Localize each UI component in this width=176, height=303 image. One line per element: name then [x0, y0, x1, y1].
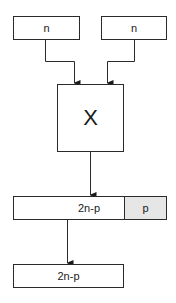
output-label: 2n-p [57, 270, 79, 282]
multiplier-label: X [83, 105, 98, 131]
arrow-input-left-to-multiplier [46, 39, 75, 83]
input-right-label: n [131, 22, 137, 34]
input-box-left: n [13, 16, 80, 40]
product-low-label: p [142, 202, 148, 214]
arrow-input-right-to-multiplier [108, 39, 135, 83]
input-left-label: n [43, 22, 49, 34]
multiplier-box: X [57, 84, 124, 152]
input-box-right: n [101, 16, 167, 40]
product-high-part: 2n-p [14, 197, 124, 219]
product-low-part: p [124, 197, 166, 219]
product-box: 2n-p p [13, 196, 167, 220]
output-box: 2n-p [13, 264, 124, 288]
product-high-label: 2n-p [78, 202, 100, 214]
